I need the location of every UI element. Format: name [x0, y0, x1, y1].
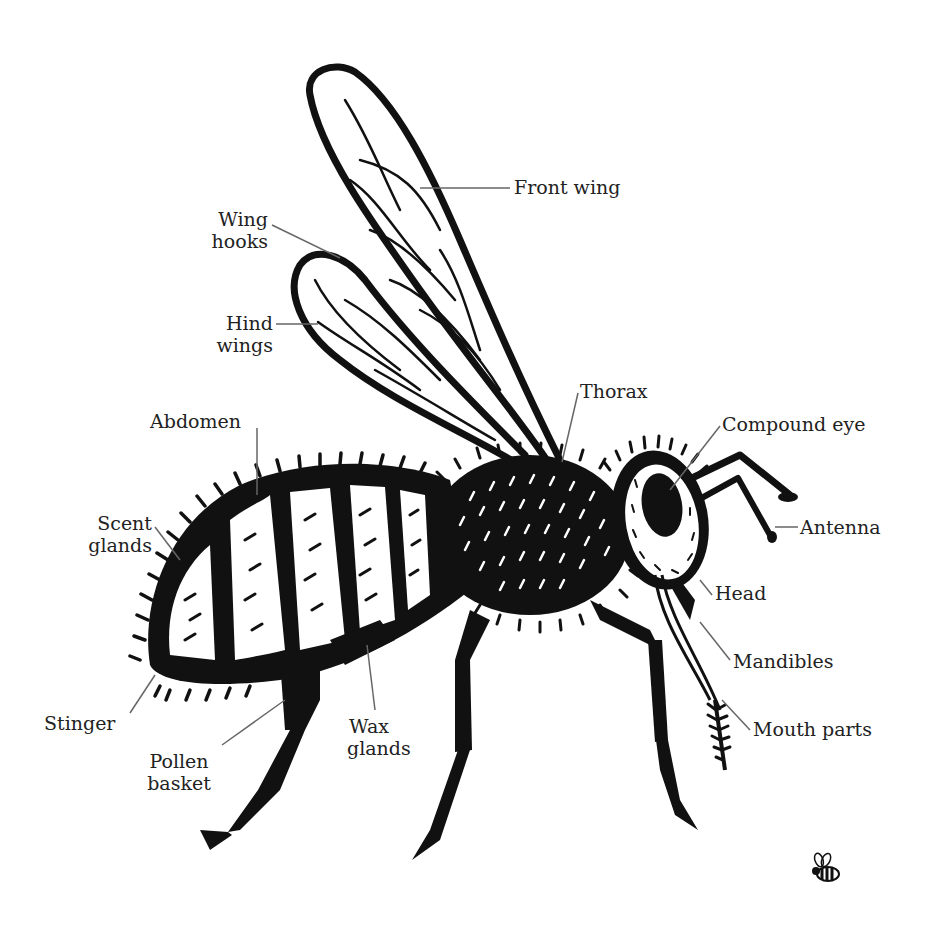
- label-wax-glands-line1: Wax: [347, 715, 411, 737]
- bee-anatomy-diagram: Front wing Wing hooks Hind wings Thorax …: [0, 0, 941, 935]
- bee-illustration: [0, 0, 941, 935]
- label-abdomen: Abdomen: [150, 410, 241, 432]
- label-pollen-basket-line2: basket: [140, 772, 218, 794]
- label-wing-hooks-line1: Wing: [200, 208, 268, 230]
- small-bee-icon: [812, 852, 839, 881]
- label-mandibles: Mandibles: [733, 650, 834, 672]
- label-antenna: Antenna: [800, 516, 881, 538]
- label-hind-wings: Hind wings: [205, 312, 273, 356]
- label-head: Head: [715, 582, 766, 604]
- label-hind-wings-line2: wings: [205, 334, 273, 356]
- label-wing-hooks-line2: hooks: [200, 230, 268, 252]
- label-scent-glands: Scent glands: [80, 512, 152, 556]
- label-thorax: Thorax: [580, 380, 647, 402]
- label-scent-glands-line2: glands: [80, 534, 152, 556]
- label-wing-hooks: Wing hooks: [200, 208, 268, 252]
- label-pollen-basket: Pollen basket: [140, 750, 218, 794]
- label-wax-glands-line2: glands: [347, 737, 411, 759]
- label-wax-glands: Wax glands: [347, 715, 411, 759]
- label-front-wing: Front wing: [514, 176, 620, 198]
- label-compound-eye: Compound eye: [722, 413, 866, 435]
- label-mouth-parts: Mouth parts: [753, 718, 872, 740]
- label-scent-glands-line1: Scent: [80, 512, 152, 534]
- label-pollen-basket-line1: Pollen: [140, 750, 218, 772]
- label-hind-wings-line1: Hind: [205, 312, 273, 334]
- label-stinger: Stinger: [44, 712, 115, 734]
- thorax-shape: [430, 443, 638, 632]
